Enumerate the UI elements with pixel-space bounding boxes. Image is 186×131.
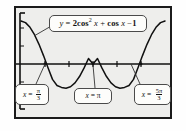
root-label-1: x = π [85,92,100,100]
root-equals-0: = [28,91,32,99]
root-leader-line-1 [93,65,95,88]
calculator-figure: y = 2cos2 x + cos x −1 x = π3 x = π x = … [0,0,186,131]
root-label-0: x = π3 [23,88,41,102]
root-leader-line-2 [131,64,140,84]
equation-term1: cos [77,18,89,28]
equation-term2: cos [107,18,119,28]
root-whole-1: π [97,92,101,100]
equation-exponent: 2 [89,17,92,23]
equation-var2: x [121,18,125,28]
root-var-1: x [85,92,88,100]
root-fraction-0: π3 [36,88,41,102]
equation-text: y = 2cos2 x + cos x −1 [59,19,136,28]
equation-constant: 1 [132,18,136,28]
equation-var1: x [94,18,98,28]
root-callout-pi-over-3: x = π3 [15,84,49,105]
root-equals-2: = [147,91,151,99]
root-callout-pi: x = π [74,88,112,104]
equation-equals: = [66,18,71,28]
root-leader-line-0 [36,64,45,84]
equation-plus: + [100,18,105,28]
equation-callout: y = 2cos2 x + cos x −1 [49,15,147,32]
equation-lhs: y [59,18,63,28]
root-callout-5pi-over-3: x = 5π3 [134,84,171,105]
root-label-2: x = 5π3 [142,88,163,102]
root-denominator-0: 3 [36,94,41,102]
root-var-2: x [142,91,145,99]
root-denominator-2: 3 [156,94,161,102]
root-fraction-2: 5π3 [155,88,164,102]
root-equals-1: = [91,92,95,100]
root-var-0: x [23,91,26,99]
